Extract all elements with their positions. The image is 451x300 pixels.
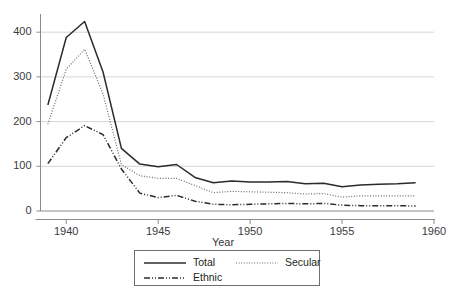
data-series-group — [48, 21, 416, 206]
legend-entry-total: Total — [144, 257, 215, 268]
legend-label-total: Total — [193, 257, 215, 268]
legend-entry-ethnic: Ethnic — [144, 272, 222, 283]
axis-tickmarks — [37, 32, 435, 224]
y-tick-label: 100 — [0, 160, 32, 171]
y-tick-label: 300 — [0, 71, 32, 82]
legend-swatch-secular — [236, 258, 278, 268]
x-axis-title: Year — [0, 236, 446, 248]
legend-label-ethnic: Ethnic — [193, 272, 222, 283]
y-tick-label: 200 — [0, 116, 32, 127]
series-line-total — [48, 21, 416, 186]
y-tick-label: 0 — [0, 205, 32, 216]
chart-legend: Total Secular Ethnic — [134, 250, 320, 286]
legend-swatch-total — [144, 258, 186, 268]
y-tick-label: 400 — [0, 26, 32, 37]
axis-lines — [36, 14, 436, 220]
legend-swatch-ethnic — [144, 273, 186, 283]
legend-entry-secular: Secular — [236, 257, 321, 268]
legend-label-secular: Secular — [285, 257, 321, 268]
